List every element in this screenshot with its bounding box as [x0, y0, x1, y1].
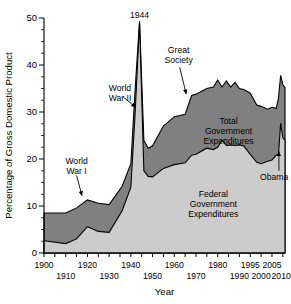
annotation-obama: Obama [260, 172, 288, 182]
chart-container: 0102030405019001920194019601980199520051… [0, 0, 291, 304]
annotation-world-war-ii: WorldWar II [109, 83, 132, 103]
y-tick-label: 30 [26, 106, 37, 117]
x-tick-label: 1995 [241, 260, 260, 270]
x-tick-label: 1920 [78, 260, 97, 270]
x-tick-label: 1930 [100, 271, 119, 281]
y-tick-label: 50 [26, 12, 37, 23]
annotation-great-society: GreatSociety [165, 45, 194, 65]
y-tick-label: 10 [26, 200, 37, 211]
y-tick-label: 40 [26, 59, 37, 70]
x-tick-label: 1960 [165, 260, 184, 270]
y-tick-label: 20 [26, 153, 37, 164]
x-tick-label: 2005 [262, 260, 281, 270]
x-tick-label: 1910 [56, 271, 75, 281]
x-tick-label: 1950 [143, 271, 162, 281]
gdp-expenditures-area-chart: 0102030405019001920194019601980199520051… [0, 0, 291, 304]
x-tick-label: 1940 [121, 260, 140, 270]
x-axis-title: Year [155, 286, 175, 297]
x-tick-label: 2000 [252, 271, 271, 281]
x-tick-label: 1970 [186, 271, 205, 281]
x-tick-label: 1900 [34, 260, 53, 270]
annotation-world-war-i: WorldWar I [65, 156, 88, 176]
annotation-peak-1944: 1944 [130, 10, 149, 20]
x-tick-label: 2010* [272, 271, 291, 281]
x-tick-label: 1990 [230, 271, 249, 281]
x-tick-label: 1980 [208, 260, 227, 270]
y-axis-title: Percentage of Gross Domestic Product [3, 52, 14, 219]
y-tick-label: 0 [32, 247, 37, 258]
